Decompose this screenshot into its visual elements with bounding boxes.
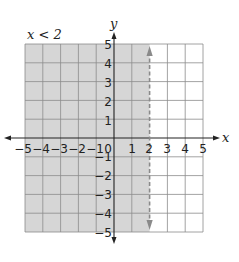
svg-text:5: 5	[104, 38, 112, 52]
x-axis-label: x	[222, 130, 230, 145]
svg-text:2: 2	[104, 95, 112, 109]
svg-text:5: 5	[199, 142, 207, 156]
y-axis-label: y	[109, 16, 118, 31]
svg-text:1: 1	[104, 114, 112, 128]
svg-text:−1: −1	[94, 150, 112, 164]
svg-text:−3: −3	[94, 188, 112, 202]
svg-text:3: 3	[163, 142, 171, 156]
svg-text:2: 2	[145, 142, 153, 156]
svg-text:−3: −3	[50, 142, 68, 156]
svg-text:−2: −2	[94, 169, 112, 183]
svg-text:−2: −2	[68, 142, 86, 156]
svg-text:−5: −5	[94, 226, 112, 240]
inequality-title: x < 2	[27, 27, 62, 42]
svg-text:4: 4	[104, 57, 112, 71]
inequality-graph: x < 2 x y −5 −4 −3 −2 −1 0 1 2 3 4 5 5 4…	[0, 0, 239, 262]
svg-text:1: 1	[128, 142, 136, 156]
svg-text:−5: −5	[14, 142, 32, 156]
svg-text:−4: −4	[32, 142, 50, 156]
svg-text:3: 3	[104, 76, 112, 90]
svg-text:−4: −4	[94, 207, 112, 221]
svg-text:4: 4	[181, 142, 189, 156]
